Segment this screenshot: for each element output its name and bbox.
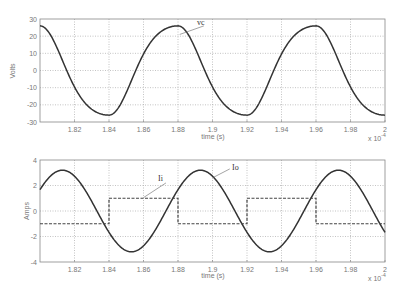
x-tick-label: 1.92: [240, 266, 254, 273]
y-tick-label: 30: [29, 16, 37, 23]
x-tick-label: 1.9: [208, 126, 218, 133]
y-tick-label: -2: [31, 233, 37, 240]
bottom-multiplier-base: x 10: [368, 275, 381, 282]
x-tick-label: 1.86: [137, 126, 151, 133]
top-x-multiplier: x 10-4: [368, 132, 386, 142]
y-tick-label: -20: [27, 101, 37, 108]
x-tick-label: 1.82: [68, 126, 82, 133]
x-tick-label: 1.94: [275, 266, 289, 273]
bottom-x-multiplier: x 10-4: [368, 272, 386, 282]
figure: 1.821.841.861.881.91.921.941.961.9823020…: [0, 0, 407, 299]
x-tick-label: 1.94: [275, 126, 289, 133]
y-tick-label: -30: [27, 119, 37, 126]
x-tick-label: 1.86: [137, 266, 151, 273]
x-tick-label: 1.84: [102, 266, 116, 273]
top-y-axis-label: Volts: [9, 63, 16, 79]
x-tick-label: 1.98: [344, 266, 358, 273]
top-multiplier-exp: -4: [381, 132, 386, 138]
vc-annotation: vc: [197, 18, 205, 27]
x-tick-label: 1.92: [240, 126, 254, 133]
bottom-x-axis-label: time (s): [201, 272, 224, 280]
x-tick-label: 1.88: [171, 126, 185, 133]
y-tick-label: 20: [29, 33, 37, 40]
y-tick-label: -4: [31, 259, 37, 266]
y-tick-label: 0: [33, 208, 37, 215]
top-axes-voltage: 1.821.841.861.881.91.921.941.961.9823020…: [27, 16, 387, 134]
bottom-multiplier-exp: -4: [381, 272, 386, 278]
y-tick-label: 0: [33, 67, 37, 74]
x-tick-label: 1.82: [68, 266, 82, 273]
top-x-axis-label: time (s): [201, 133, 224, 141]
bottom-axes-current: 1.821.841.861.881.91.921.941.961.982420-…: [31, 157, 387, 274]
io-annotation: Io: [232, 163, 239, 172]
x-tick-label: 1.88: [171, 266, 185, 273]
bottom-y-axis-label: Amps: [23, 202, 31, 220]
y-tick-label: 2: [33, 182, 37, 189]
ii-annotation: Ii: [158, 174, 164, 183]
x-tick-label: 1.96: [309, 266, 323, 273]
x-tick-label: 1.96: [309, 126, 323, 133]
top-multiplier-base: x 10: [368, 135, 381, 142]
y-tick-label: 4: [33, 157, 37, 164]
x-tick-label: 1.98: [344, 126, 358, 133]
y-tick-label: -10: [27, 84, 37, 91]
x-tick-label: 1.84: [102, 126, 116, 133]
y-tick-label: 10: [29, 50, 37, 57]
